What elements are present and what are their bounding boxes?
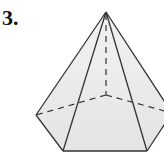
pentagonal-pyramid-figure	[0, 0, 164, 167]
